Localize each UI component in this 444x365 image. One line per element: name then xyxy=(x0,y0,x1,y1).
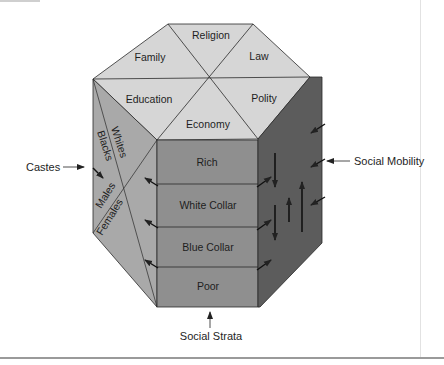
stratum-label-white-collar: White Collar xyxy=(179,199,237,211)
castes-label: Castes xyxy=(26,161,61,173)
segment-label-polity: Polity xyxy=(251,92,277,104)
stratum-label-blue-collar: Blue Collar xyxy=(182,241,234,253)
social-mobility-callout: Social Mobility xyxy=(327,155,425,167)
segment-label-law: Law xyxy=(249,50,269,62)
social-structure-prism-diagram: Religion Family Law Education Polity Eco… xyxy=(0,0,444,365)
social-mobility-label: Social Mobility xyxy=(354,155,425,167)
castes-callout: Castes xyxy=(26,161,84,173)
segment-label-economy: Economy xyxy=(186,118,231,130)
segment-label-family: Family xyxy=(135,51,167,63)
segment-label-education: Education xyxy=(126,93,173,105)
stratum-label-rich: Rich xyxy=(196,156,217,168)
stratum-label-poor: Poor xyxy=(197,280,220,292)
social-strata-label: Social Strata xyxy=(180,330,243,342)
segment-label-religion: Religion xyxy=(192,29,230,41)
social-strata-callout: Social Strata xyxy=(180,312,243,342)
